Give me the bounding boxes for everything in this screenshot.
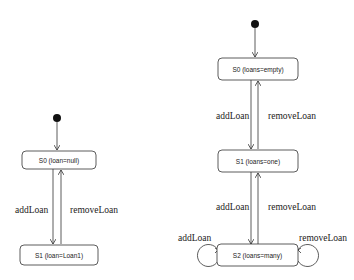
transition-removeloan-label: removeLoan xyxy=(268,111,316,121)
state-s1[interactable]: S1 (loans=one) xyxy=(218,150,298,172)
diagram-single-loan: S0 (loan=null) addLoan removeLoan S1 (lo… xyxy=(15,114,118,265)
state-s0-label: S0 (loan=null) xyxy=(39,157,79,165)
self-loop-removeloan xyxy=(298,244,319,266)
transition-addloan-2-label: addLoan xyxy=(216,202,249,212)
self-loop-addloan xyxy=(197,244,218,266)
state-s1[interactable]: S1 (loan=Loan1) xyxy=(20,245,98,265)
state-s0-label: S0 (loans=empty) xyxy=(232,66,283,74)
transition-removeloan-label: removeLoan xyxy=(70,205,118,215)
transition-addloan-label: addLoan xyxy=(15,205,48,215)
transition-addloan-label: addLoan xyxy=(216,111,249,121)
state-s2-label: S2 (loans=many) xyxy=(233,252,282,260)
initial-state-icon xyxy=(251,20,259,28)
state-s0[interactable]: S0 (loan=null) xyxy=(22,151,96,169)
self-loop-removeloan-label: removeLoan xyxy=(299,233,347,243)
initial-state-icon xyxy=(53,114,61,122)
state-diagrams: S0 (loan=null) addLoan removeLoan S1 (lo… xyxy=(0,0,354,280)
state-s0[interactable]: S0 (loans=empty) xyxy=(218,58,298,80)
transition-removeloan-2-label: removeLoan xyxy=(268,202,316,212)
diagram-multi-loan: S0 (loans=empty) addLoan removeLoan S1 (… xyxy=(178,20,347,267)
state-s1-label: S1 (loans=one) xyxy=(236,158,280,166)
state-s1-label: S1 (loan=Loan1) xyxy=(35,252,83,260)
state-s2[interactable]: S2 (loans=many) xyxy=(217,244,298,266)
self-loop-addloan-label: addLoan xyxy=(178,233,211,243)
